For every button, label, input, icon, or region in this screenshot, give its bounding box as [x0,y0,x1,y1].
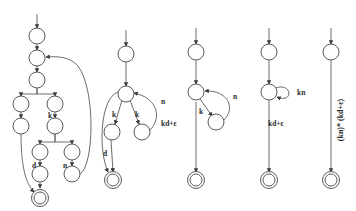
automata-svg: k d n k k n d [0,0,356,211]
p1-edge-7-10 [55,134,72,144]
panel-1-nodes [13,28,80,207]
automata-figure-canvas: k d n k k n d [0,0,356,211]
p1-edge-7-8 [40,134,55,144]
p1-state-1 [29,28,45,44]
panel-3-nodes [188,44,225,189]
p3-label-kd-epsilon: kd+ε [161,119,178,128]
p1-edge-3-6 [37,88,55,96]
p4-edge-self-loop [276,87,289,98]
p1-state-3 [29,72,45,88]
p4-label-kd-epsilon: kd+ε [268,119,285,128]
p4-label-kn: kn [297,88,306,97]
p2-label-k-right: k [135,110,140,119]
p3-label-k: k [199,107,204,116]
panel-2-nodes [104,46,150,189]
p3-label-n: n [233,92,238,101]
p3-state-3 [208,114,224,130]
p1-state-2 [29,50,45,66]
p1-state-7 [47,118,63,134]
p2-state-1 [118,46,134,62]
p2-edge-3-accept [111,140,113,172]
p1-state-4 [13,96,29,112]
p1-state-8 [32,144,48,160]
p1-edge-3-4 [21,88,37,96]
p3-state-2 [188,84,204,100]
p5-state-1 [323,44,339,60]
p2-state-3 [104,124,120,140]
p2-state-4 [134,124,150,140]
p5-label-regex: (kn)* (kd+ε) [336,98,345,141]
p1-state-5 [13,118,29,134]
p2-label-k-left: k [112,110,117,119]
p4-state-2 [261,84,277,100]
p2-label-d: d [103,149,108,158]
p2-label-n: n [161,97,166,106]
p4-state-1 [261,44,277,60]
p1-state-6 [47,96,63,112]
p2-state-2 [118,86,134,102]
p1-state-10 [64,144,80,160]
p3-state-1 [188,44,204,60]
